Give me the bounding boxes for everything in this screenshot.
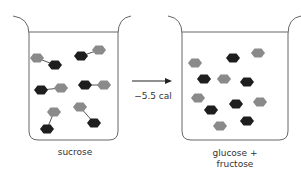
fructose-unit: [73, 103, 87, 112]
sucrose-label: sucrose: [40, 147, 110, 158]
glucose-molecule: [240, 117, 254, 126]
glucose-fructose-molecules: [188, 49, 267, 131]
glucose-unit: [74, 52, 88, 61]
right-beaker: [168, 16, 301, 140]
products-label: glucose + fructose: [195, 148, 275, 170]
sucrose-molecule: [30, 54, 62, 70]
glucose-unit: [78, 81, 92, 90]
energy-label: −5.5 cal: [128, 91, 178, 102]
products-label-line1: glucose +: [195, 148, 275, 159]
fructose-unit: [30, 54, 44, 63]
sucrose-molecule: [34, 84, 68, 95]
fructose-unit: [97, 81, 111, 90]
fructose-molecule: [188, 59, 202, 68]
fructose-unit: [47, 108, 61, 117]
arrowhead-icon: [165, 78, 172, 84]
fructose-molecule: [217, 75, 231, 84]
glucose-unit: [48, 61, 62, 70]
glucose-unit: [87, 119, 101, 128]
glucose-molecule: [197, 75, 211, 84]
sucrose-molecules: [30, 46, 111, 134]
fructose-unit: [54, 84, 68, 93]
sucrose-molecule: [40, 108, 61, 134]
glucose-molecule: [204, 106, 218, 115]
sucrose-molecule: [74, 46, 106, 61]
glucose-molecule: [240, 78, 254, 87]
glucose-molecule: [226, 54, 240, 63]
reaction-arrow: [132, 78, 172, 84]
fructose-molecule: [251, 49, 265, 58]
glucose-molecule: [229, 100, 243, 109]
products-label-line2: fructose: [195, 159, 275, 170]
fructose-molecule: [213, 122, 227, 131]
sucrose-molecule: [78, 81, 111, 90]
sucrose-molecule: [73, 103, 101, 128]
glucose-unit: [40, 125, 54, 134]
fructose-unit: [92, 46, 106, 55]
left-beaker: [13, 16, 131, 140]
fructose-molecule: [253, 98, 267, 107]
fructose-molecule: [191, 94, 205, 103]
glucose-unit: [34, 86, 48, 95]
